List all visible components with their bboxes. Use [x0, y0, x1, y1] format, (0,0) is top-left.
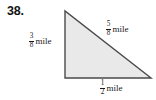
fraction-denominator: 8: [106, 30, 111, 37]
fraction-numerator: 3: [29, 33, 34, 40]
fraction-denominator: 8: [29, 42, 34, 49]
unit-label: mile: [107, 84, 123, 93]
fraction-denominator: 2: [100, 89, 105, 96]
fraction-five-eighths: 5 8: [106, 21, 111, 37]
right-triangle-diagram: [0, 0, 156, 100]
label-left-leg: 3 8 mile: [29, 33, 52, 49]
unit-label: mile: [113, 25, 129, 34]
label-hypotenuse: 5 8 mile: [106, 21, 129, 37]
fraction-numerator: 1: [100, 80, 105, 87]
unit-label: mile: [36, 37, 52, 46]
fraction-three-eighths: 3 8: [29, 33, 34, 49]
fraction-numerator: 5: [106, 21, 111, 28]
fraction-one-half: 1 2: [100, 80, 105, 96]
figure-container: 38. 3 8 mile 5 8 mile 1 2 mile: [0, 0, 156, 100]
label-bottom-leg: 1 2 mile: [100, 80, 123, 96]
